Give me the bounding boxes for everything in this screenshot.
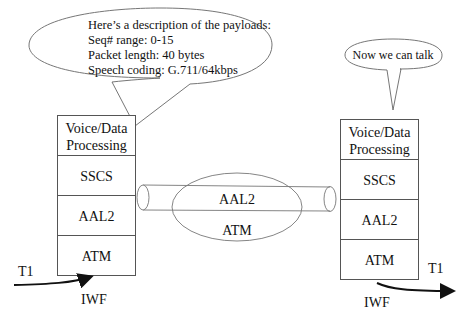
right-layer-voice-data-line1: Voice/Data	[349, 125, 412, 140]
callout-line-speech-coding: Speech coding: G.711/64kbps	[88, 63, 238, 77]
right-protocol-stack: Voice/Data Processing SSCS AAL2 ATM	[341, 120, 419, 280]
left-callout-bubble: Here’s a description of the payloads: Se…	[29, 8, 272, 126]
right-t1-arrow-icon	[377, 283, 452, 291]
pipe-label-aal2: AAL2	[219, 192, 255, 207]
right-iwf-label: IWF	[364, 295, 390, 310]
left-layer-aal2: AAL2	[79, 209, 115, 224]
right-layer-atm: ATM	[365, 253, 395, 268]
left-protocol-stack: Voice/Data Processing SSCS AAL2 ATM	[58, 116, 136, 276]
left-layer-voice-data-line1: Voice/Data	[66, 121, 129, 136]
callout-text: Now we can talk	[353, 48, 434, 62]
left-iwf-label: IWF	[81, 292, 107, 307]
right-callout-bubble: Now we can talk	[345, 39, 442, 110]
right-t1-label: T1	[428, 261, 444, 276]
right-layer-aal2: AAL2	[362, 213, 398, 228]
ellipse-label-atm: ATM	[222, 223, 252, 238]
callout-line-seq-range: Seq# range: 0-15	[88, 33, 173, 47]
left-layer-atm: ATM	[82, 249, 112, 264]
left-t1-label: T1	[18, 264, 34, 279]
callout-heading: Here’s a description of the payloads:	[88, 18, 271, 32]
left-layer-voice-data-line2: Processing	[66, 138, 127, 153]
left-layer-sscs: SSCS	[80, 169, 113, 184]
right-layer-voice-data-line2: Processing	[349, 142, 410, 157]
diagram-canvas: Here’s a description of the payloads: Se…	[0, 0, 465, 318]
callout-line-packet-length: Packet length: 40 bytes	[88, 48, 204, 62]
right-layer-sscs: SSCS	[363, 173, 396, 188]
